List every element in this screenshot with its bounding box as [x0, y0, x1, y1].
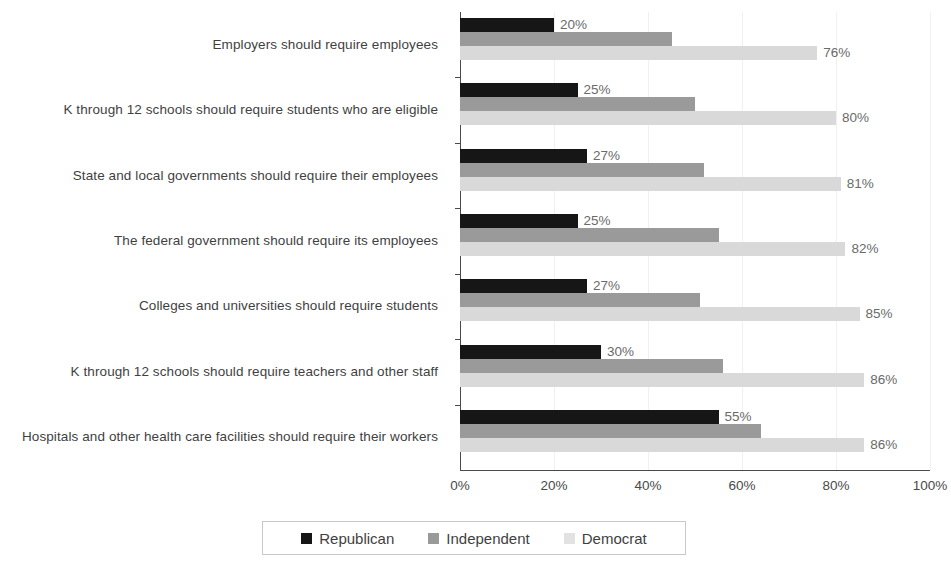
x-axis-tick-label: 0% — [450, 478, 470, 493]
bar-value-label: 86% — [870, 438, 897, 452]
bar-republican — [460, 345, 601, 359]
category-label-text: State and local governments should requi… — [0, 167, 438, 185]
bar-value-label: 81% — [847, 177, 874, 191]
y-axis-tick — [455, 143, 460, 144]
bar-independent — [460, 32, 672, 46]
bar-republican — [460, 214, 578, 228]
legend-label: Democrat — [582, 530, 647, 547]
bar-democrat — [460, 111, 836, 125]
bar-value-label: 82% — [851, 242, 878, 256]
x-axis-tick-label: 80% — [822, 478, 849, 493]
bar-independent — [460, 293, 700, 307]
category-label-text: The federal government should require it… — [0, 232, 438, 250]
category-label-text: K through 12 schools should require stud… — [0, 101, 438, 119]
category-label: The federal government should require it… — [0, 208, 448, 273]
bar-democrat — [460, 242, 845, 256]
category-axis-labels: Employers should require employeesK thro… — [0, 12, 448, 470]
bar-republican — [460, 149, 587, 163]
bar-republican — [460, 279, 587, 293]
category-label: Employers should require employees — [0, 12, 448, 77]
bar-independent — [460, 424, 761, 438]
gridline — [930, 12, 931, 470]
bar-group: 27%81% — [460, 149, 930, 191]
chart-legend: RepublicanIndependentDemocrat — [262, 521, 686, 555]
bar-value-label: 25% — [584, 214, 611, 228]
bar-value-label: 80% — [842, 111, 869, 125]
category-label-text: Colleges and universities should require… — [0, 297, 438, 315]
bar-value-label: 20% — [560, 18, 587, 32]
category-label: K through 12 schools should require teac… — [0, 339, 448, 404]
bar-democrat — [460, 177, 841, 191]
legend-item[interactable]: Republican — [301, 530, 394, 547]
y-axis-tick — [455, 405, 460, 406]
legend-swatch-icon — [301, 533, 312, 544]
plot-area: 20%76%25%80%27%81%25%82%27%85%30%86%55%8… — [460, 12, 930, 470]
chart-canvas: Employers should require employeesK thro… — [0, 0, 951, 563]
category-label: K through 12 schools should require stud… — [0, 77, 448, 142]
y-axis-tick — [455, 77, 460, 78]
bar-group: 55%86% — [460, 410, 930, 452]
bar-value-label: 86% — [870, 373, 897, 387]
y-axis-tick — [455, 274, 460, 275]
x-axis-tick-label: 60% — [728, 478, 755, 493]
bar-value-label: 85% — [866, 307, 893, 321]
x-axis-line — [460, 470, 930, 471]
category-label-text: K through 12 schools should require teac… — [0, 363, 438, 381]
bar-group: 30%86% — [460, 345, 930, 387]
legend-label: Independent — [446, 530, 529, 547]
bar-democrat — [460, 373, 864, 387]
bar-value-label: 55% — [725, 410, 752, 424]
bar-value-label: 30% — [607, 345, 634, 359]
bar-republican — [460, 83, 578, 97]
x-axis-tick-label: 40% — [634, 478, 661, 493]
legend-swatch-icon — [564, 533, 575, 544]
bar-group: 20%76% — [460, 18, 930, 60]
bar-independent — [460, 163, 704, 177]
bar-group: 25%80% — [460, 83, 930, 125]
category-label-text: Hospitals and other health care faciliti… — [0, 428, 438, 446]
category-label: State and local governments should requi… — [0, 143, 448, 208]
y-axis-tick — [455, 339, 460, 340]
bar-democrat — [460, 438, 864, 452]
bar-democrat — [460, 307, 860, 321]
category-label-text: Employers should require employees — [0, 36, 438, 54]
category-label: Colleges and universities should require… — [0, 274, 448, 339]
bar-value-label: 25% — [584, 83, 611, 97]
legend-item[interactable]: Democrat — [564, 530, 647, 547]
bar-independent — [460, 228, 719, 242]
bar-group: 27%85% — [460, 279, 930, 321]
bar-independent — [460, 97, 695, 111]
bar-democrat — [460, 46, 817, 60]
legend-label: Republican — [319, 530, 394, 547]
x-axis-tick-labels: 0%20%40%60%80%100% — [460, 478, 930, 498]
bar-value-label: 27% — [593, 279, 620, 293]
bar-republican — [460, 18, 554, 32]
legend-swatch-icon — [428, 533, 439, 544]
bar-independent — [460, 359, 723, 373]
x-axis-tick-label: 20% — [540, 478, 567, 493]
x-axis-tick-label: 100% — [913, 478, 948, 493]
bar-group: 25%82% — [460, 214, 930, 256]
bar-value-label: 76% — [823, 46, 850, 60]
bar-republican — [460, 410, 719, 424]
legend-item[interactable]: Independent — [428, 530, 529, 547]
category-label: Hospitals and other health care faciliti… — [0, 405, 448, 470]
y-axis-tick — [455, 208, 460, 209]
bar-value-label: 27% — [593, 149, 620, 163]
